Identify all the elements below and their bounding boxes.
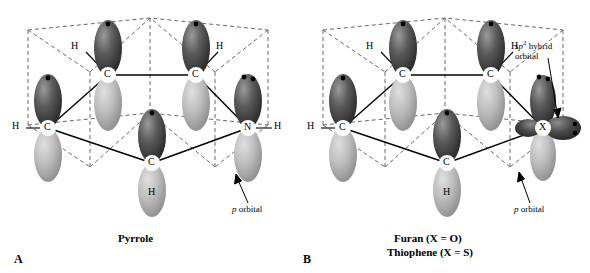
p-orbital-lobe-lower: [182, 75, 210, 131]
atom-label-x: X: [539, 121, 546, 132]
panel-b-caption-line1: Furan (X = O): [394, 232, 462, 244]
atom-label-c: C: [148, 156, 155, 167]
hydrogen-label: H: [71, 40, 78, 51]
hydrogen-label: H: [274, 120, 281, 131]
panel-b-letter: B: [303, 252, 311, 267]
p-orbital-lobe-upper: [138, 109, 166, 163]
p-orbital-lobe-lower: [329, 128, 357, 182]
atom-label-c: C: [104, 68, 111, 79]
p-orbital-lobe-upper: [433, 109, 461, 163]
hydrogen-label: H: [148, 186, 155, 197]
hydrogen-label: H: [307, 120, 314, 131]
p-orbital-annotation-rest: orbital: [237, 204, 263, 214]
p-orbital-lobe-lower: [94, 75, 122, 131]
atom-label-n: N: [244, 121, 251, 132]
atom-label-c: C: [339, 121, 346, 132]
sp2-annotation-line2: orbital: [515, 51, 552, 61]
panel-a-letter: A: [14, 252, 23, 267]
panel-b-caption-line2: Thiophene (X = S): [387, 246, 473, 258]
hydrogen-label: H: [216, 40, 223, 51]
atom-label-c: C: [192, 68, 199, 79]
atom-label-c: C: [44, 121, 51, 132]
p-orbital-lobe-upper: [234, 74, 262, 128]
panel-a-pyrrole: C C C N C H H H H H p orbital Pyrrole A: [0, 0, 295, 273]
hydrogen-label: H: [12, 120, 19, 131]
p-orbital-lobe-lower: [234, 128, 262, 182]
p-orbital-lobe-upper: [329, 74, 357, 128]
p-orbital-annotation-rest: orbital: [519, 204, 545, 214]
panel-b-furan-thiophene: C C C X C H H H H sp2 hybrid orbital p o…: [295, 0, 590, 273]
sp2-annotation-rest: hybrid: [527, 41, 553, 51]
hydrogen-label: H: [443, 186, 450, 197]
atom-label-c: C: [487, 68, 494, 79]
sp2-hybrid-orbital-annotation: sp2 hybrid orbital: [515, 38, 552, 61]
p-orbital-lobe-lower: [34, 128, 62, 182]
p-orbital-lobe-upper: [34, 74, 62, 128]
p-orbital-lobe-lower: [477, 75, 505, 131]
hydrogen-label: H: [366, 40, 373, 51]
p-orbital-annotation: p orbital: [514, 204, 544, 214]
panel-a-caption: Pyrrole: [118, 232, 153, 244]
p-orbital-annotation: p orbital: [232, 204, 262, 214]
sp2-annotation-italic: sp: [515, 41, 523, 51]
atom-label-c: C: [399, 68, 406, 79]
atom-label-c: C: [443, 156, 450, 167]
p-orbital-lobe-lower: [389, 75, 417, 131]
